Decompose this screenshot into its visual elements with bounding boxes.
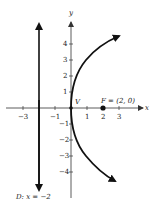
y-tick-label: 4 — [63, 40, 68, 48]
x-tick-label: 3 — [117, 113, 121, 121]
focus-label: F = (2, 0) — [100, 97, 135, 105]
parabola-lower-branch — [71, 108, 115, 181]
parabola-diagram: y x −3 −1 1 2 3 4 3 2 1 −1 −2 −3 −4 V F … — [0, 0, 153, 204]
x-tick-label: −3 — [18, 113, 28, 121]
vertex-point — [69, 106, 73, 110]
x-tick-label: 1 — [85, 113, 89, 121]
y-tick-label: −1 — [59, 120, 69, 128]
y-tick-label: −3 — [59, 152, 69, 160]
x-tick-label: 2 — [101, 113, 105, 121]
y-tick-label: 1 — [63, 88, 67, 96]
x-axis-label: x — [145, 104, 149, 112]
y-axis-label: y — [68, 9, 74, 17]
focus-point — [100, 105, 105, 110]
directrix-label: D: x = −2 — [15, 193, 51, 201]
y-tick-label: 2 — [63, 72, 67, 80]
y-tick-label: −2 — [59, 136, 69, 144]
y-tick-label: −4 — [59, 168, 70, 176]
vertex-label: V — [75, 98, 81, 106]
y-tick-label: 3 — [63, 56, 67, 64]
